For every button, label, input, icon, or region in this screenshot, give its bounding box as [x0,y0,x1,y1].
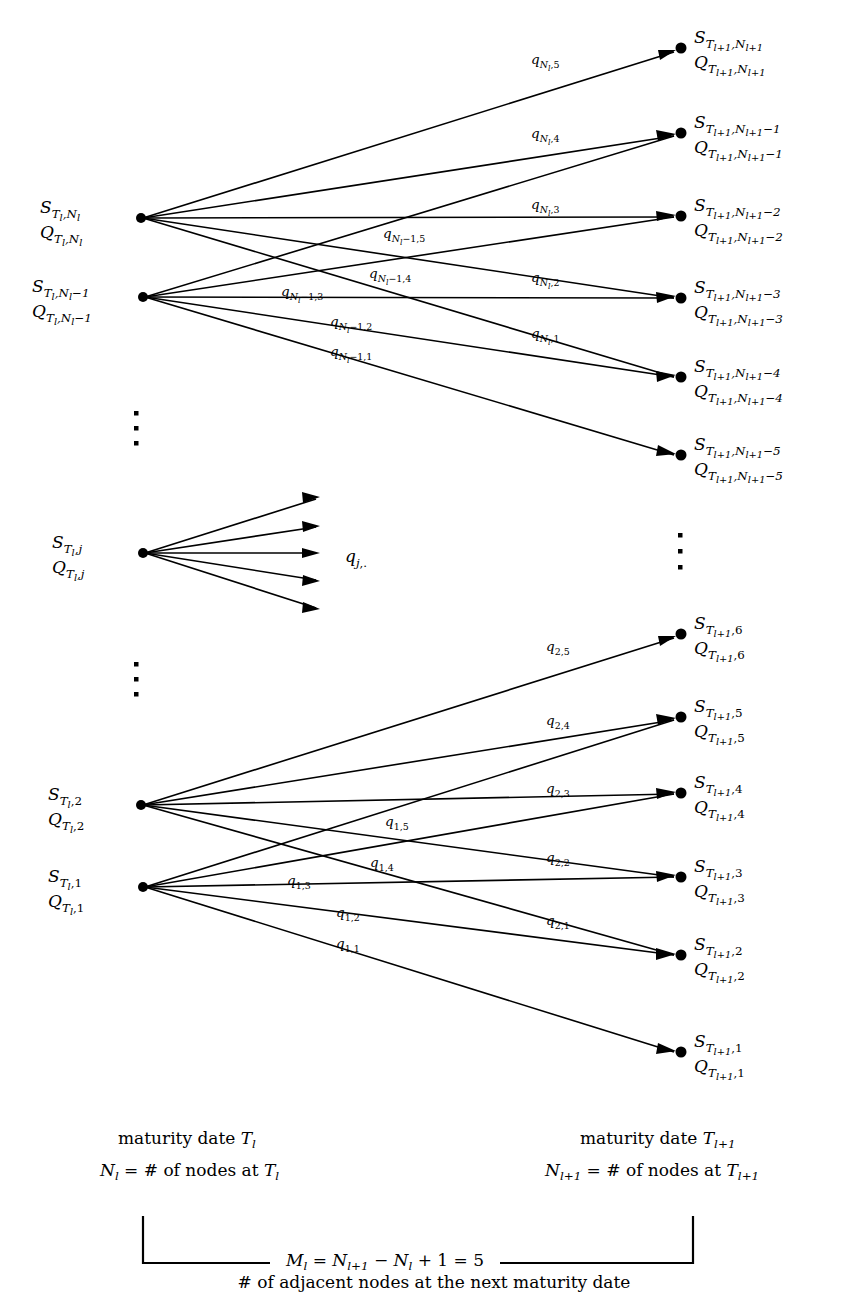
edge-j-fan-1 [145,553,316,608]
node-dot-right-Nl1-5[interactable] [676,450,687,461]
node-dot-right-Nl1-1[interactable] [676,128,687,139]
edge-label-qNlm1-2: qNl−1,2 [330,313,372,335]
edge-2-to-5 [143,720,674,805]
node-label-left-2-S: STl,2 [48,784,82,810]
node-label-right-Nl1-1-S: STl+1,Nl+1−1 [694,112,781,138]
ellipsis-left-lower [134,662,139,697]
bottom-note: # of adjacent nodes at the next maturity… [0,1272,868,1292]
node-label-right-Nl1-5-Q: QTl+1,Nl+1−5 [694,459,783,485]
node-label-right-1-Q: QTl+1,1 [694,1056,745,1082]
node-dot-right-Nl1-2[interactable] [676,211,687,222]
node-label-left-Nl-minus-1-S: STl,Nl−1 [32,276,90,302]
edge-labels-bottom: q2,5 q2,4 q2,3 q2,2 q2,1 q1,5 q1,4 q1,3 … [287,638,570,954]
node-label-right-1-S: STl+1,1 [694,1031,743,1057]
formula-tail: + 1 = 5 [412,1250,484,1270]
node-label-right-6-S: STl+1,6 [694,613,743,639]
edge-label-q22: q2,2 [546,849,570,868]
node-label-right-2-Q: QTl+1,2 [694,959,745,985]
left-node-dots [136,213,148,892]
edge-label-qNl2: qNl,2 [531,269,559,291]
node-dot-right-2[interactable] [676,950,687,961]
caption-left-maturity-prefix: maturity date [118,1128,241,1148]
node-label-left-j-Q: QTl,j [52,557,85,583]
node-dot-right-6[interactable] [676,629,687,640]
caption-left-maturity-symbol: T [241,1128,252,1148]
node-label-right-Nl1-Q: QTl+1,Nl+1 [694,52,765,78]
edge-Nlm1-to-Nl1m4 [145,297,674,377]
edge-j-fan-4 [145,527,316,553]
arrowhead [658,50,676,60]
node-dot-right-5[interactable] [676,712,687,723]
edge-label-q11: q1,1 [336,935,360,954]
formula-minus: − [369,1250,394,1270]
edge-label-qNlm1-4: qNl−1,4 [369,265,411,287]
formula-N1-symbol: N [332,1250,347,1270]
edge-label-q24: q2,4 [546,712,570,731]
edge-label-q12: q1,2 [336,904,360,923]
node-label-right-2-S: STl+1,2 [694,934,743,960]
node-label-right-Nl1-4-S: STl+1,Nl+1−4 [694,356,781,382]
node-label-right-Nl1-3-Q: QTl+1,Nl+1−3 [694,302,783,328]
edge-label-q21: q2,1 [546,912,570,931]
node-dot-right-1[interactable] [676,1047,687,1058]
edge-label-qNlm1-3: qNl−1,3 [281,283,323,305]
right-node-labels: STl+1,Nl+1 QTl+1,Nl+1 STl+1,Nl+1−1 QTl+1… [694,27,783,1082]
node-dot-right-Nl1[interactable] [676,43,687,54]
node-dot-right-3[interactable] [676,872,687,883]
edge-j-fan-5 [145,499,316,553]
node-label-right-5-S: STl+1,5 [694,696,743,722]
caption-left-count-subscript2: l [275,1169,279,1183]
edge-label-qNl4: qNl,4 [531,125,559,147]
formula-M: Ml = Nl+1 − Nl + 1 = 5 [280,1250,490,1273]
caption-right-maturity-prefix: maturity date [580,1128,703,1148]
lattice-diagram-svg: STl,Nl QTl,Nl STl,Nl−1 QTl,Nl−1 STl,j QT… [0,0,868,1305]
edge-label-q15: q1,5 [385,813,409,832]
node-dot-left-Nl-1[interactable] [138,292,148,302]
node-label-right-Nl1-2-Q: QTl+1,Nl+1−2 [694,220,783,246]
caption-left-maturity-subscript: l [252,1137,256,1151]
edge-Nlm1-to-Nl1m3 [145,297,674,298]
node-dot-left-Nl[interactable] [136,213,146,223]
node-dot-right-Nl1-3[interactable] [676,293,687,304]
caption-right-count-symbol: N [545,1160,560,1180]
node-label-right-Nl1-2-S: STl+1,Nl+1−2 [694,195,781,221]
node-label-left-j-S: STl,j [52,532,83,558]
edge-1-to-1 [145,887,674,1052]
arrowhead [656,948,676,960]
edge-j-fan-2 [145,553,316,580]
left-node-labels: STl,Nl QTl,Nl STl,Nl−1 QTl,Nl−1 STl,j QT… [32,197,92,917]
edge-label-qNlm1-1: qNl−1,1 [330,343,372,365]
node-label-right-Nl1-1-Q: QTl+1,Nl+1−1 [694,137,783,163]
edge-label-qNl1: qNl,1 [531,325,559,347]
arrowhead [302,548,320,558]
node-dot-right-4[interactable] [676,788,687,799]
caption-left-count-symbol: N [100,1160,115,1180]
node-dot-left-1[interactable] [138,882,148,892]
node-dot-left-2[interactable] [136,800,146,810]
figure-canvas: STl,Nl QTl,Nl STl,Nl−1 QTl,Nl−1 STl,j QT… [0,0,868,1305]
formula-eq1: = [307,1250,332,1270]
caption-right-count-text: = # of nodes at [581,1160,726,1180]
edge-1-to-3 [145,877,674,887]
node-label-right-Nl1-S: STl+1,Nl+1 [694,27,763,53]
formula-M-symbol: M [286,1250,303,1270]
caption-right-maturity-line: maturity date Tl+1 [580,1128,735,1151]
node-dot-right-Nl1-4[interactable] [676,372,687,383]
edge-label-q13: q1,3 [287,872,311,891]
node-label-left-2-Q: QTl,2 [48,809,84,835]
edges-from-node-Nl-minus-1 [145,136,674,455]
caption-right-count-line: Nl+1 = # of nodes at Tl+1 [545,1160,759,1183]
arrowhead [302,602,320,613]
edge-2-to-6 [143,638,674,805]
edge-Nlm1-to-Nl1m2 [145,217,674,297]
caption-right-count-subscript2: l+1 [738,1169,759,1183]
caption-right-count-subscript: l+1 [560,1169,581,1183]
node-dot-left-j[interactable] [138,548,148,558]
caption-right-maturity-subscript: l+1 [714,1137,735,1151]
caption-right-maturity-symbol: T [703,1128,714,1148]
caption-left-maturity-line: maturity date Tl [118,1128,256,1151]
node-label-right-4-S: STl+1,4 [694,772,743,798]
node-label-left-1-S: STl,1 [48,866,82,892]
node-label-right-4-Q: QTl+1,4 [694,797,745,823]
edge-label-q25: q2,5 [546,638,570,657]
